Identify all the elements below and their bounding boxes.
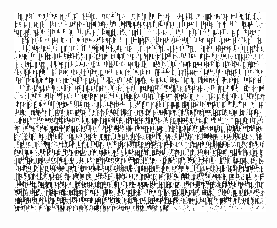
- scanned-text-block: [14, 12, 266, 212]
- scanned-document-page: [0, 0, 277, 228]
- document-legible-text: [0, 0, 1, 1]
- degraded-text-texture: [14, 12, 266, 212]
